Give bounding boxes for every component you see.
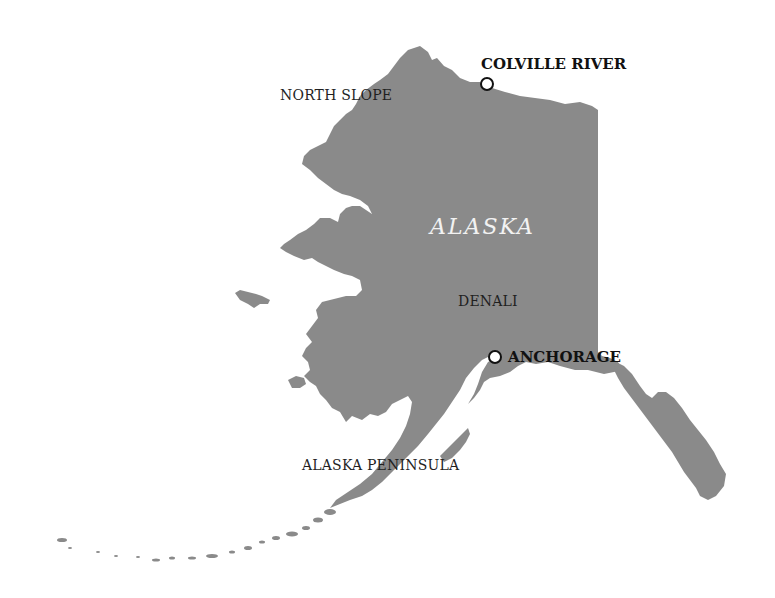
alaska-map: NORTH SLOPE DENALI ALASKA PENINSULA ALAS… bbox=[0, 0, 775, 598]
city-label-colville-river: COLVILLE RIVER bbox=[481, 57, 626, 72]
mainland-shape bbox=[280, 46, 622, 508]
region-label-north-slope: NORTH SLOPE bbox=[280, 88, 392, 102]
st-lawrence-island bbox=[235, 290, 270, 308]
panhandle-shape bbox=[614, 362, 726, 500]
colville-river-marker-icon bbox=[480, 77, 494, 91]
nunivak-island bbox=[288, 376, 306, 388]
anchorage-marker-icon bbox=[488, 350, 502, 364]
city-label-anchorage: ANCHORAGE bbox=[508, 350, 621, 365]
region-label-denali: DENALI bbox=[458, 294, 518, 308]
region-label-alaska-peninsula: ALASKA PENINSULA bbox=[302, 458, 459, 472]
state-label-alaska: ALASKA bbox=[430, 216, 535, 238]
